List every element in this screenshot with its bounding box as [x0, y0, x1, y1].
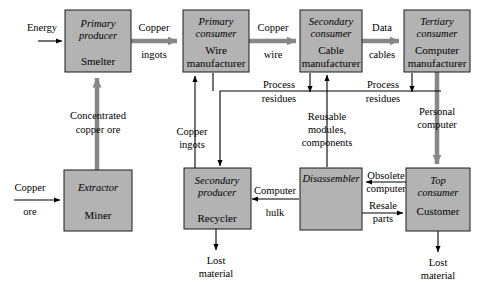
label-copper-ingots-2: ingots [141, 49, 167, 60]
node-secondary-producer-name: Recycler [197, 212, 236, 224]
node-primary-consumer-role: Primary [198, 16, 234, 27]
node-tertiary-consumer-name2: manufacturer [408, 57, 467, 69]
label-copper-ingots-1: Copper [139, 22, 170, 33]
label-computer-hulk-2: hulk [266, 207, 285, 218]
node-secondary-consumer[interactable]: Secondary consumer Cable manufacturer [300, 10, 362, 72]
label-lost-material-customer-1: Lost [429, 257, 448, 268]
node-disassembler-role: Disassembler [301, 173, 360, 184]
node-primary-producer-role2: producer [78, 30, 118, 41]
label-resale-parts-2: parts [373, 213, 393, 224]
node-primary-consumer[interactable]: Primary consumer Wire manufacturer [183, 10, 249, 72]
node-secondary-producer[interactable]: Secondary producer Recycler [184, 168, 251, 229]
label-energy: Energy [27, 22, 58, 33]
node-secondary-consumer-name: Cable [318, 44, 344, 56]
label-copper-wire-2: wire [264, 49, 283, 60]
node-top-consumer-role2: consumer [418, 187, 460, 198]
node-primary-consumer-name: Wire [205, 44, 227, 56]
node-extractor-role: Extractor [77, 182, 119, 193]
label-lost-material-recycler-2: material [199, 268, 233, 279]
label-copper-ingots-recycled-2: ingots [179, 139, 205, 150]
label-reusable-modules-3: components [302, 137, 353, 148]
node-secondary-producer-role2: producer [197, 187, 237, 198]
flow-diagram-svg: Primary producer Smelter Primary consume… [0, 0, 477, 289]
node-disassembler[interactable]: Disassembler [300, 168, 362, 230]
node-extractor[interactable]: Extractor Miner [64, 170, 132, 231]
label-data-cables-2: cables [369, 49, 395, 60]
label-obsolete-computer-1: Obsolete [367, 170, 405, 181]
node-secondary-consumer-name2: manufacturer [302, 57, 361, 69]
label-process-residues-right-2: residues [366, 93, 400, 104]
thick-flow-arrows [97, 41, 437, 170]
node-primary-producer-name: Smelter [81, 55, 116, 67]
label-lost-material-customer-2: material [421, 270, 455, 281]
node-secondary-consumer-role: Secondary [309, 16, 354, 27]
label-copper-ore-1: Copper [15, 182, 46, 193]
label-process-residues-left-2: residues [262, 93, 296, 104]
label-computer-hulk-1: Computer [254, 185, 296, 196]
node-primary-producer-role: Primary [80, 18, 116, 29]
node-tertiary-consumer-role2: consumer [417, 28, 459, 39]
node-primary-producer[interactable]: Primary producer Smelter [65, 10, 131, 72]
node-tertiary-consumer-name: Computer [415, 44, 459, 56]
node-top-consumer-name: Customer [417, 205, 460, 217]
label-concentrated-ore-1: Concentrated [70, 110, 127, 121]
node-primary-consumer-role2: consumer [196, 28, 238, 39]
label-copper-ingots-recycled-1: Copper [177, 126, 208, 137]
label-copper-wire-1: Copper [258, 22, 289, 33]
flow-diagram-canvas: Primary producer Smelter Primary consume… [0, 0, 477, 289]
node-secondary-consumer-role2: consumer [311, 28, 353, 39]
label-process-residues-right-1: Process [367, 79, 399, 90]
label-personal-computer-2: computer [417, 119, 457, 130]
label-resale-parts-1: Resale [369, 200, 397, 211]
node-tertiary-consumer-role: Tertiary [420, 16, 454, 27]
label-process-residues-left-1: Process [263, 79, 295, 90]
label-copper-ore-2: ore [23, 206, 37, 217]
node-extractor-box[interactable] [64, 170, 132, 231]
node-tertiary-consumer[interactable]: Tertiary consumer Computer manufacturer [404, 10, 470, 72]
label-personal-computer-1: Personal [419, 106, 455, 117]
label-obsolete-computer-2: computer [366, 183, 406, 194]
node-top-consumer[interactable]: Top consumer Customer [406, 168, 470, 231]
node-top-consumer-role: Top [430, 175, 445, 186]
label-concentrated-ore-2: copper ore [76, 124, 121, 135]
label-lost-material-recycler-1: Lost [207, 255, 226, 266]
node-primary-consumer-name2: manufacturer [187, 57, 246, 69]
label-data-cables-1: Data [372, 22, 392, 33]
node-extractor-name: Miner [85, 209, 112, 221]
node-secondary-producer-role: Secondary [195, 175, 240, 186]
label-reusable-modules-2: modules, [308, 124, 346, 135]
label-reusable-modules-1: Reusable [308, 111, 347, 122]
